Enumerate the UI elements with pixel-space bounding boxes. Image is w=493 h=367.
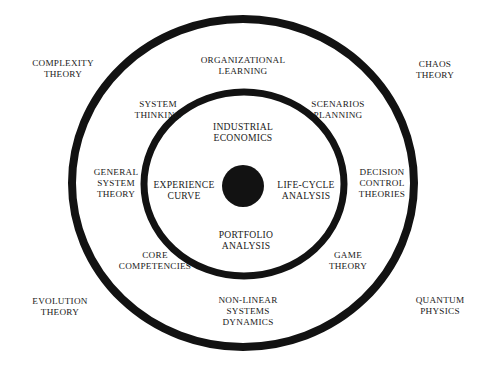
label-life-cycle-analysis: Life-Cycle Analysis xyxy=(277,179,334,202)
label-experience-curve: Experience Curve xyxy=(153,179,214,202)
label-general-system-theory: General System Theory xyxy=(94,167,139,200)
label-non-linear-systems-dynamics: Non-Linear Systems Dynamics xyxy=(218,295,277,328)
label-scenarios-planning: Scenarios Planning xyxy=(311,99,364,121)
label-quantum-physics: Quantum Physics xyxy=(416,295,465,317)
label-industrial-economics: Industrial Economics xyxy=(213,121,273,144)
label-complexity-theory: Complexity Theory xyxy=(32,58,94,80)
label-chaos-theory: Chaos Theory xyxy=(416,59,454,81)
label-system-thinking: System Thinking xyxy=(135,99,182,121)
label-game-theory: Game Theory xyxy=(329,250,367,272)
concentric-circles-diagram: Complexity Theory Chaos Theory Evolution… xyxy=(0,0,493,367)
label-decision-control-theories: Decision Control Theories xyxy=(359,167,405,200)
core-dot xyxy=(222,165,264,207)
label-evolution-theory: Evolution Theory xyxy=(32,296,87,318)
label-core-competencies: Core Competencies xyxy=(119,250,191,272)
label-portfolio-analysis: Portfolio Analysis xyxy=(219,229,273,252)
label-organizational-learning: Organizational Learning xyxy=(201,55,286,77)
